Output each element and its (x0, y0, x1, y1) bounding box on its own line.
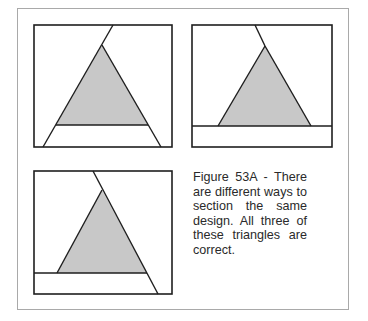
shaded-triangle (57, 190, 147, 273)
panel-3 (34, 171, 172, 294)
apex-section-line (255, 25, 265, 46)
shaded-triangle (218, 46, 311, 126)
triangle-sectioning-diagram (0, 0, 368, 321)
panel-1 (34, 25, 172, 147)
figure-caption: Figure 53A - There are different ways to… (193, 170, 307, 258)
panel-2 (192, 25, 332, 147)
shaded-triangle (56, 45, 148, 125)
